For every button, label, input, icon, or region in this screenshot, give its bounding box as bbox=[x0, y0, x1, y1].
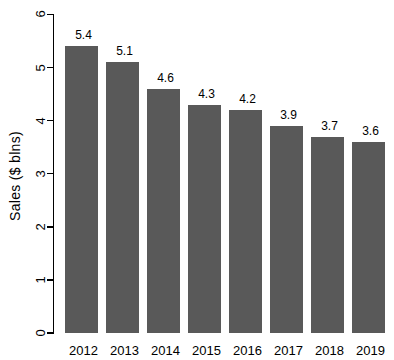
bar-value-label: 5.4 bbox=[75, 28, 92, 42]
y-tick-label: 3 bbox=[33, 170, 48, 177]
bar-2019 bbox=[352, 142, 385, 333]
bar-2014 bbox=[147, 89, 180, 333]
x-tick-label: 2018 bbox=[315, 343, 344, 358]
bar-value-label: 3.6 bbox=[362, 124, 379, 138]
bar-value-label: 4.2 bbox=[239, 92, 256, 106]
y-axis-label: Sales ($ blns) bbox=[7, 131, 23, 221]
y-axis-line bbox=[53, 14, 55, 334]
bar-2016 bbox=[229, 110, 262, 333]
y-tick-label: 0 bbox=[33, 329, 48, 336]
bar-2018 bbox=[311, 137, 344, 333]
bar-value-label: 4.3 bbox=[198, 87, 215, 101]
x-tick-label: 2014 bbox=[151, 343, 180, 358]
x-tick-label: 2017 bbox=[274, 343, 303, 358]
bar-value-label: 3.9 bbox=[280, 108, 297, 122]
y-tick-label: 2 bbox=[33, 223, 48, 230]
x-tick-label: 2015 bbox=[192, 343, 221, 358]
y-tick-label: 4 bbox=[33, 117, 48, 124]
y-tick-label: 5 bbox=[33, 64, 48, 71]
bar-value-label: 5.1 bbox=[116, 44, 133, 58]
bar-chart-figure: Sales ($ blns) 0123456 5.45.14.64.34.23.… bbox=[0, 0, 394, 360]
bar-2012 bbox=[65, 46, 98, 333]
bar-2017 bbox=[270, 126, 303, 333]
y-tick-label: 6 bbox=[33, 11, 48, 18]
bar-2015 bbox=[188, 105, 221, 333]
y-tick-label: 1 bbox=[33, 276, 48, 283]
bar-value-label: 3.7 bbox=[321, 119, 338, 133]
bar-value-label: 4.6 bbox=[157, 71, 174, 85]
x-tick-label: 2012 bbox=[69, 343, 98, 358]
x-tick-label: 2019 bbox=[356, 343, 385, 358]
x-tick-label: 2013 bbox=[110, 343, 139, 358]
bar-2013 bbox=[106, 62, 139, 333]
x-tick-label: 2016 bbox=[233, 343, 262, 358]
